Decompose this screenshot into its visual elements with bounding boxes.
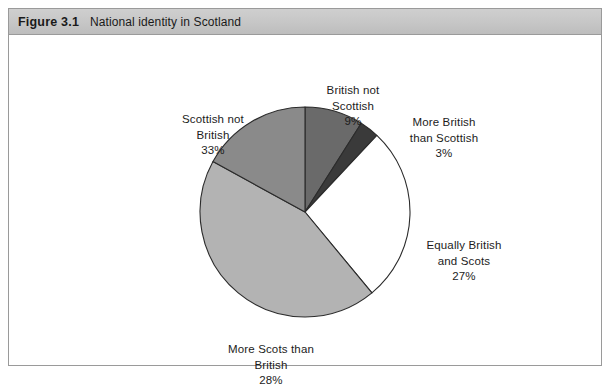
pie-chart	[9, 35, 603, 365]
pie-label-more-british-than-scottish: More British than Scottish 3%	[394, 115, 494, 162]
pie-label-value: 28%	[209, 373, 333, 388]
pie-label-british-not-scottish: British not Scottish 9%	[308, 83, 398, 130]
chart-plot-area: Scottish not British 33% British not Sco…	[9, 35, 601, 365]
pie-label-value: 9%	[308, 114, 398, 130]
figure-caption: National identity in Scotland	[90, 15, 241, 29]
pie-label-value: 3%	[394, 146, 494, 162]
pie-label-equally-british-and-scots: Equally British and Scots 27%	[409, 238, 519, 285]
figure-panel: Figure 3.1 National identity in Scotland…	[8, 8, 602, 366]
pie-label-value: 33%	[165, 143, 261, 159]
pie-label-scottish-not-british: Scottish not British 33%	[165, 112, 261, 159]
figure-number: Figure 3.1	[18, 15, 79, 29]
pie-label-line-1: More British	[394, 115, 494, 131]
pie-label-line-2: and Scots	[409, 254, 519, 270]
pie-label-line-1: More Scots than	[209, 342, 333, 358]
pie-label-value: 27%	[409, 269, 519, 285]
pie-label-line-2: Scottish	[308, 99, 398, 115]
figure-header-bar: Figure 3.1 National identity in Scotland	[9, 9, 601, 35]
pie-label-line-2: British	[209, 358, 333, 374]
pie-label-line-1: British not	[308, 83, 398, 99]
pie-label-line-1: Equally British	[409, 238, 519, 254]
pie-label-line-1: Scottish not	[165, 112, 261, 128]
pie-label-line-2: British	[165, 128, 261, 144]
pie-label-more-scots-than-british: More Scots than British 28%	[209, 342, 333, 388]
pie-label-line-2: than Scottish	[394, 131, 494, 147]
